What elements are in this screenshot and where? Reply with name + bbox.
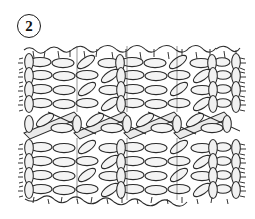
- stitch-row: [18, 181, 246, 199]
- swatch-body: [18, 45, 246, 206]
- knitted-swatch-illustration: [0, 0, 255, 219]
- bottom-edge: [25, 196, 228, 206]
- figure-container: 2: [0, 0, 255, 219]
- stitch-row: [18, 95, 246, 113]
- cable-twist-band: [18, 111, 246, 139]
